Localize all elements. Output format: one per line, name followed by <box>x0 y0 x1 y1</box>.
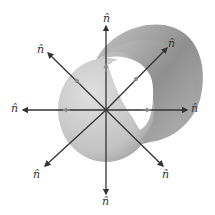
cylinder-normals-figure <box>0 0 215 215</box>
label-n-lower-left: n̂ <box>33 169 40 180</box>
label-n-upper-left: n̂ <box>37 44 44 55</box>
tube-body <box>58 25 203 162</box>
label-n-lower-right: n̂ <box>162 169 169 180</box>
label-n-upper-right: n̂ <box>168 38 175 49</box>
label-n-left: n̂ <box>11 103 18 114</box>
label-n-bottom: n̂ <box>102 196 109 207</box>
label-n-right: n̂ <box>191 103 198 114</box>
label-n-top: n̂ <box>103 13 110 24</box>
